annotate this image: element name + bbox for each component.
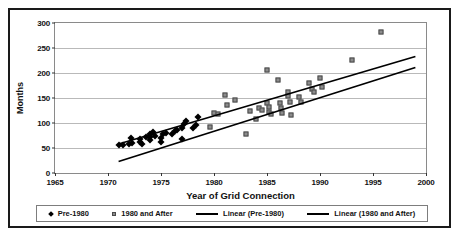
y-tick-label: 200 [37, 69, 50, 78]
legend-item[interactable]: Linear (Pre-1980) [196, 209, 284, 218]
legend-line-icon [196, 213, 218, 215]
x-axis-title: Year of Grid Connection [54, 190, 427, 201]
chart-frame: Months 050100150200250300196519701975198… [8, 8, 451, 228]
x-tick-mark [267, 173, 268, 176]
chart-legend: Pre-19801980 and AfterLinear (Pre-1980)L… [36, 205, 428, 222]
y-axis-title: Months [15, 82, 25, 114]
y-tick-label: 250 [37, 44, 50, 53]
x-tick-mark [373, 173, 374, 176]
y-tick-label: 300 [37, 19, 50, 28]
x-tick-label: 1970 [100, 178, 117, 187]
x-tick-label: 1985 [259, 178, 276, 187]
legend-item[interactable]: 1980 and After [112, 209, 172, 218]
y-tick-label: 50 [42, 144, 51, 153]
x-tick-label: 2000 [418, 178, 435, 187]
legend-item-label: Linear (1980 and After) [334, 209, 415, 218]
plot-area: 0501001502002503001965197019751980198519… [54, 22, 427, 174]
x-tick-mark [55, 173, 56, 176]
x-tick-mark [320, 173, 321, 176]
legend-item[interactable]: Linear (1980 and After) [307, 209, 415, 218]
x-tick-label: 1965 [47, 178, 64, 187]
x-tick-mark [161, 173, 162, 176]
trendline [119, 68, 416, 162]
x-tick-mark [426, 173, 427, 176]
y-tick-label: 100 [37, 119, 50, 128]
x-tick-mark [108, 173, 109, 176]
x-tick-label: 1990 [312, 178, 329, 187]
legend-item[interactable]: Pre-1980 [49, 209, 89, 218]
trendline [119, 57, 416, 145]
x-tick-label: 1975 [153, 178, 170, 187]
legend-diamond-icon [48, 211, 54, 217]
legend-item-label: Linear (Pre-1980) [223, 209, 284, 218]
legend-item-label: 1980 and After [121, 209, 172, 218]
legend-square-icon [112, 212, 116, 216]
x-tick-label: 1995 [365, 178, 382, 187]
trendline-layer [55, 23, 426, 173]
x-tick-label: 1980 [206, 178, 223, 187]
y-tick-label: 0 [46, 169, 50, 178]
legend-item-label: Pre-1980 [58, 209, 89, 218]
legend-line-icon [307, 213, 329, 215]
y-tick-label: 150 [37, 94, 50, 103]
x-tick-mark [214, 173, 215, 176]
